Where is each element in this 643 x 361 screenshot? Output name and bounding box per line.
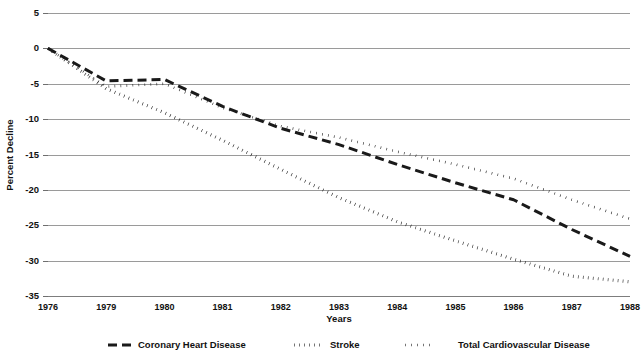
x-tick-label-0: 1976	[38, 302, 58, 312]
x-tick-label-10: 1988	[620, 302, 640, 312]
y-tick-label-6: -25	[25, 219, 39, 230]
x-tick-label-9: 1987	[562, 302, 582, 312]
y-tick-label-5: -20	[25, 184, 39, 195]
y-tick-label-8: -35	[25, 290, 39, 301]
y-tick-label-2: -5	[31, 78, 40, 89]
y-tick-label-1: 0	[34, 42, 39, 53]
y-tick-label-0: 5	[34, 7, 40, 18]
x-tick-label-6: 1984	[387, 302, 407, 312]
legend-label-0: Coronary Heart Disease	[138, 339, 246, 350]
legend-label-2: Total Cardiovascular Disease	[458, 339, 590, 350]
x-tick-label-7: 1985	[445, 302, 465, 312]
y-tick-label-3: -10	[25, 113, 39, 124]
y-axis-title: Percent Decline	[4, 119, 15, 190]
x-axis-title: Years	[326, 313, 351, 324]
y-tick-label-4: -15	[25, 149, 39, 160]
x-tick-label-3: 1981	[213, 302, 233, 312]
x-tick-label-5: 1983	[329, 302, 349, 312]
x-tick-label-4: 1982	[271, 302, 291, 312]
x-tick-label-2: 1980	[154, 302, 174, 312]
x-tick-label-8: 1986	[504, 302, 524, 312]
legend-label-1: Stroke	[330, 339, 360, 350]
chart-legend: Coronary Heart DiseaseStrokeTotal Cardio…	[108, 339, 590, 350]
chart-container: 50-5-10-15-20-25-30-35 19761979198019811…	[0, 0, 643, 361]
x-tick-label-1: 1979	[96, 302, 116, 312]
percent-decline-line-chart: 50-5-10-15-20-25-30-35 19761979198019811…	[0, 0, 643, 361]
y-tick-label-7: -30	[25, 255, 39, 266]
